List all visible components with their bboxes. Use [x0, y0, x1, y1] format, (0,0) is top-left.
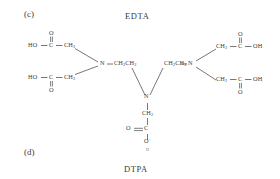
atom-ch2-topleft: CH2	[64, 42, 75, 49]
atom-oh-bottomright: OH	[253, 76, 262, 82]
atom-ch2-bottomright: CH2	[216, 76, 227, 83]
atom-o-center-bottom: O+	[144, 138, 151, 144]
atom-ch2-center: CH2	[142, 110, 153, 117]
atom-ho-topleft: HO	[28, 42, 37, 48]
atom-o-bottomleft: O	[49, 87, 54, 93]
atom-n-center: N	[144, 93, 149, 99]
atom-c-center: C	[144, 125, 148, 131]
linker-ethylene-left: CH2CH2	[114, 60, 137, 67]
atom-c-topleft: C	[49, 42, 53, 48]
compound-name-edta: EDTA	[125, 12, 149, 21]
bond-ethylene-ncenter-right	[150, 68, 163, 95]
panel-tag-c: (c)	[24, 10, 34, 19]
atom-ho-bottomleft: HO	[28, 74, 37, 80]
compound-name-dtpa: DTPA	[124, 165, 148, 174]
panel-tag-d: (d)	[24, 148, 35, 157]
atom-o-topright: O	[238, 31, 243, 37]
bond-ch2-n-topleft	[75, 49, 98, 63]
atom-o-topleft: O	[49, 30, 54, 36]
atom-n-right: N	[188, 60, 193, 66]
atom-ch2-topright: CH2	[216, 43, 227, 50]
bond-n-ch2-bottomright	[196, 67, 216, 80]
atom-h-center-bottom: H	[146, 147, 149, 152]
atom-o-center-left: O	[126, 125, 131, 131]
bond-ethylene-ncenter-left	[132, 68, 145, 95]
bond-n-ch2-topright	[196, 49, 216, 61]
atom-n-left: N	[100, 60, 105, 66]
linker-ethylene-right: CH2CH2	[164, 60, 187, 67]
figure-canvas: (c) EDTA (d) DTPA HO C O CH2 HO C O CH2 …	[0, 0, 280, 179]
atom-c-bottomleft: C	[49, 74, 53, 80]
atom-ch2-bottomleft: CH2	[64, 74, 75, 81]
atom-c-bottomright: C	[238, 76, 242, 82]
atom-oh-topright: OH	[253, 43, 262, 49]
atom-c-topright: C	[238, 43, 242, 49]
bond-ch2-n-bottomleft	[75, 66, 98, 75]
atom-o-bottomright: O	[238, 89, 243, 95]
